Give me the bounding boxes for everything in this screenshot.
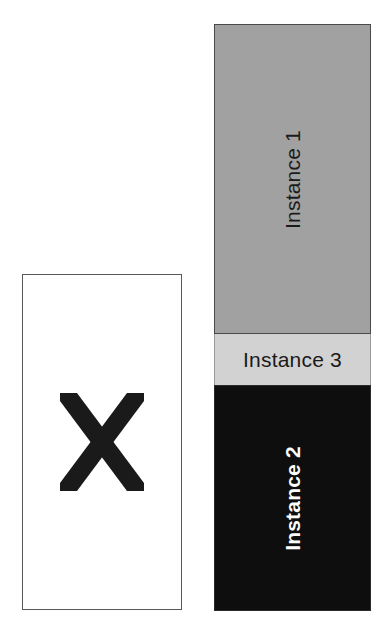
instance-block-1: Instance 1 xyxy=(214,24,371,334)
instance-block-1-label: Instance 1 xyxy=(282,130,303,229)
empty-instance-box xyxy=(22,274,182,610)
instance-block-3-content: Instance 3 xyxy=(215,334,370,385)
instance-block-1-content: Instance 1 xyxy=(215,25,370,333)
instance-block-2-label: Instance 2 xyxy=(282,446,303,551)
instance-block-2-content: Instance 2 xyxy=(215,386,370,610)
instance-block-3: Instance 3 xyxy=(214,334,371,385)
x-mark-icon xyxy=(23,275,181,609)
instance-stack: Instance 1 Instance 3 Instance 2 xyxy=(214,24,371,611)
figure-canvas: Instance 1 Instance 3 Instance 2 xyxy=(0,0,387,627)
instance-block-3-label: Instance 3 xyxy=(243,349,342,370)
instance-block-2: Instance 2 xyxy=(214,385,371,611)
